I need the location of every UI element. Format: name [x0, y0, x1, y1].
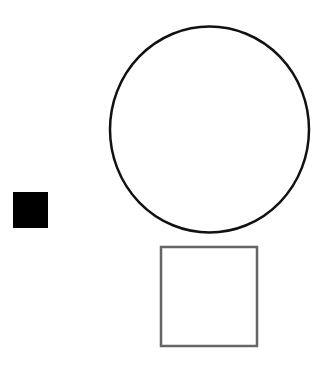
outline-circle — [110, 27, 309, 233]
outline-grey-square — [161, 247, 257, 346]
diagram-canvas — [0, 0, 328, 371]
filled-black-square — [13, 192, 48, 228]
